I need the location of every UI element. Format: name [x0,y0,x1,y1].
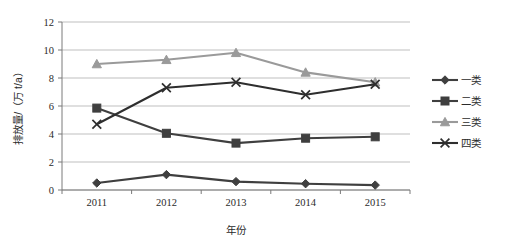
x-axis-title: 年份 [226,224,247,236]
x-tick-label: 2011 [86,197,107,208]
data-point-marker [302,134,310,142]
legend-label: 二类 [461,95,482,107]
y-tick-label: 12 [44,17,55,28]
x-tick-label: 2014 [295,197,317,208]
legend-label: 一类 [461,74,482,86]
data-point-marker [93,104,101,112]
x-tick-label: 2012 [156,197,177,208]
data-point-marker [371,133,379,141]
y-tick-label: 10 [44,45,55,56]
chart-background [0,0,514,249]
data-point-marker [232,139,240,147]
chart-canvas: 024681012 20112012201320142015 排放量/（万 t/… [0,0,514,249]
y-axis-title: 排放量/（万 t/a） [12,67,24,145]
line-chart-figure: 024681012 20112012201320142015 排放量/（万 t/… [0,0,514,249]
data-point-marker [162,129,170,137]
x-tick-label: 2015 [365,197,386,208]
y-tick-label: 6 [49,101,54,112]
legend-label: 三类 [461,116,482,128]
y-tick-label: 0 [49,185,54,196]
y-tick-label: 2 [49,157,54,168]
y-tick-label: 4 [49,129,55,140]
legend-marker [441,97,449,105]
legend-label: 四类 [461,137,482,149]
x-tick-label: 2013 [226,197,247,208]
y-tick-label: 8 [49,73,54,84]
